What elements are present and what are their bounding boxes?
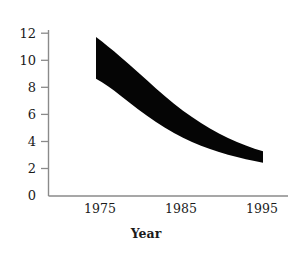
x-tick-label-1995: 1995 <box>234 203 290 216</box>
chart-container: 12 10 8 6 4 2 0 1975 1985 1995 Year <box>0 0 292 253</box>
y-tick-label-0: 0 <box>8 189 36 202</box>
x-axis-title: Year <box>0 228 292 241</box>
data-band-area <box>96 37 263 163</box>
y-tick-label-6: 6 <box>8 108 36 121</box>
x-tick-label-1975: 1975 <box>72 203 128 216</box>
y-tick-label-10: 10 <box>8 54 36 67</box>
x-tick-label-1985: 1985 <box>153 203 209 216</box>
y-axis-ticks <box>41 33 49 168</box>
y-tick-label-12: 12 <box>8 27 36 40</box>
y-tick-label-8: 8 <box>8 81 36 94</box>
y-tick-label-4: 4 <box>8 135 36 148</box>
y-tick-label-2: 2 <box>8 162 36 175</box>
